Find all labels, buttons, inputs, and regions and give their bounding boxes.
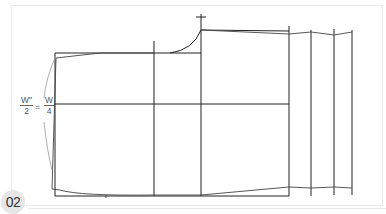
hem-contour-left bbox=[52, 189, 154, 195]
formula-equals: = bbox=[35, 103, 40, 112]
formula-right-fraction: W 4 bbox=[44, 96, 54, 115]
side-seam-top-contour bbox=[56, 53, 154, 58]
hem-contour-right bbox=[154, 187, 352, 195]
formula-right-denominator: 4 bbox=[47, 106, 52, 116]
footer-divider bbox=[28, 208, 386, 209]
figure-number-badge: 02 bbox=[1, 190, 25, 214]
formula-left-denominator: 2 bbox=[24, 106, 29, 116]
formula-right-numerator: W bbox=[44, 96, 54, 106]
formula-left-numerator: W" bbox=[20, 96, 33, 106]
width-formula: W" 2 = W 4 bbox=[20, 96, 56, 122]
neckline-curve bbox=[170, 30, 201, 53]
guide-curve-lower bbox=[44, 122, 52, 170]
guide-curve-upper bbox=[44, 58, 55, 98]
formula-left-fraction: W" 2 bbox=[20, 96, 33, 115]
pattern-draft-diagram bbox=[0, 0, 386, 214]
